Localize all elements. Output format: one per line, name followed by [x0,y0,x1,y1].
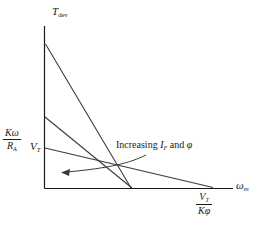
komega-over-ra-fraction: Kω RA [3,128,21,152]
plot-canvas [0,0,266,230]
torque-line-flat [45,148,213,188]
fraction-denominator: Kφ [196,205,212,216]
fraction-numerator: VT [196,192,212,205]
y-intercept-upper-label: Kω RA [3,128,21,152]
y-axis-title: Tdev [52,6,68,19]
x-intercept-label: VT Kφ [196,192,212,216]
annotation-arrowhead [61,169,70,176]
fraction-numerator: Kω [3,128,21,140]
vt-subscript: T [37,146,41,153]
torque-line-medium [45,117,132,188]
vt-over-kphi-fraction: VT Kφ [196,192,212,216]
torque-line-steep [46,44,132,188]
y-axis-subscript: dev [58,11,68,18]
vt-symbol: V [30,140,37,152]
x-axis-subscript: m [244,185,249,192]
fraction-denominator: RA [3,140,21,152]
x-axis-symbol: ω [236,179,244,191]
x-axis-title: ωm [236,180,249,193]
annotation-text-part2: and [167,139,186,150]
annotation-text-part1: Increasing [116,139,160,150]
annotation-label: Increasing IF and φ [116,140,192,151]
annotation-symbol-phi: φ [187,139,193,150]
y-intercept-vt-label: VT [30,141,41,154]
torque-speed-diagram: Tdev ωm Kω RA VT VT Kφ Increasing IF and… [0,0,266,230]
